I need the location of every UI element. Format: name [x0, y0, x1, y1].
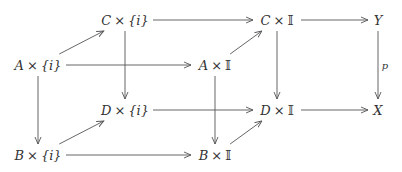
times-operator: × — [274, 103, 285, 118]
node-b-i: B×{i} — [14, 148, 61, 163]
node-set: {i} — [128, 103, 149, 118]
node-set: 𝕀 — [225, 148, 231, 163]
node-object: A — [15, 58, 24, 73]
node-object: A — [199, 58, 208, 73]
times-operator: × — [114, 13, 125, 28]
node-set: {i} — [128, 13, 149, 28]
node-c-i: C×𝕀 — [261, 13, 294, 28]
node-object: D — [101, 103, 111, 118]
times-operator: × — [114, 103, 125, 118]
arrow-label: p — [382, 60, 388, 71]
node-object: D — [260, 103, 270, 118]
times-operator: × — [27, 148, 38, 163]
node-c-i: C×{i} — [101, 13, 149, 28]
node-set: {i} — [41, 148, 62, 163]
times-operator: × — [273, 13, 284, 28]
node-a-i: A×𝕀 — [199, 58, 231, 73]
node-object: B — [199, 148, 209, 163]
arrow-b-i-to-d-i — [59, 121, 103, 144]
times-operator: × — [211, 58, 222, 73]
node-object: C — [101, 13, 111, 28]
node-set: 𝕀 — [288, 103, 294, 118]
node-d-i: D×𝕀 — [260, 103, 293, 118]
node-object: B — [14, 148, 24, 163]
arrow-a-i-to-c-i — [230, 31, 262, 54]
arrow-a-i-to-c-i — [59, 31, 103, 54]
node-b-i: B×𝕀 — [199, 148, 232, 163]
commutative-diagram — [0, 0, 402, 172]
arrow-b-i-to-d-i — [230, 121, 262, 144]
node-y: Y — [374, 13, 383, 28]
node-object: Y — [374, 13, 383, 28]
node-object: X — [373, 103, 382, 118]
node-set: 𝕀 — [225, 58, 231, 73]
times-operator: × — [27, 58, 38, 73]
node-set: 𝕀 — [287, 13, 293, 28]
node-set: {i} — [41, 58, 62, 73]
node-x: X — [373, 103, 382, 118]
node-d-i: D×{i} — [101, 103, 149, 118]
node-object: C — [261, 13, 271, 28]
node-a-i: A×{i} — [15, 58, 62, 73]
arrows-group — [38, 20, 378, 155]
times-operator: × — [211, 148, 222, 163]
